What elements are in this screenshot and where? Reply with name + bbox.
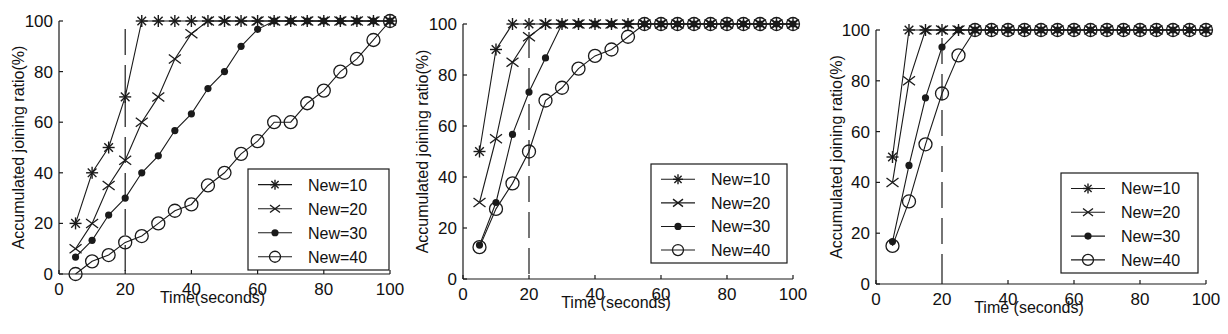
y-tick-label: 60 bbox=[851, 123, 870, 142]
legend: New=10New=20New=30New=40 bbox=[1061, 173, 1198, 273]
y-tick-label: 20 bbox=[851, 224, 870, 243]
legend-label: New=30 bbox=[1121, 228, 1180, 245]
filled-circle-marker-icon bbox=[1084, 232, 1091, 239]
x-tick-label: 80 bbox=[1131, 290, 1150, 309]
legend-label: New=10 bbox=[1121, 180, 1180, 197]
x-axis-title: Time (seconds) bbox=[974, 299, 1084, 316]
y-tick-label: 40 bbox=[851, 173, 870, 192]
series-new-20 bbox=[887, 26, 1213, 187]
asterisk-marker-icon bbox=[903, 24, 915, 36]
filled-circle-marker-icon bbox=[955, 26, 962, 33]
legend-label: New=40 bbox=[1121, 252, 1180, 269]
x-tick-label: 20 bbox=[933, 290, 952, 309]
y-tick-label: 100 bbox=[842, 21, 870, 40]
chart-panel-3: 020406080100020406080100Accumulated join… bbox=[0, 0, 1228, 334]
y-tick-label: 80 bbox=[851, 72, 870, 91]
x-tick-label: 100 bbox=[1192, 290, 1220, 309]
legend-label: New=20 bbox=[1121, 204, 1180, 221]
asterisk-marker-icon bbox=[1083, 183, 1093, 193]
x-tick-label: 0 bbox=[871, 290, 880, 309]
line-chart-3: 020406080100020406080100Accumulated join… bbox=[0, 0, 1228, 334]
filled-circle-marker-icon bbox=[938, 43, 945, 50]
filled-circle-marker-icon bbox=[922, 94, 929, 101]
y-tick-label: 0 bbox=[861, 275, 870, 294]
y-axis-title: Accumulated joining ratio(%) bbox=[828, 55, 845, 259]
filled-circle-marker-icon bbox=[905, 162, 912, 169]
